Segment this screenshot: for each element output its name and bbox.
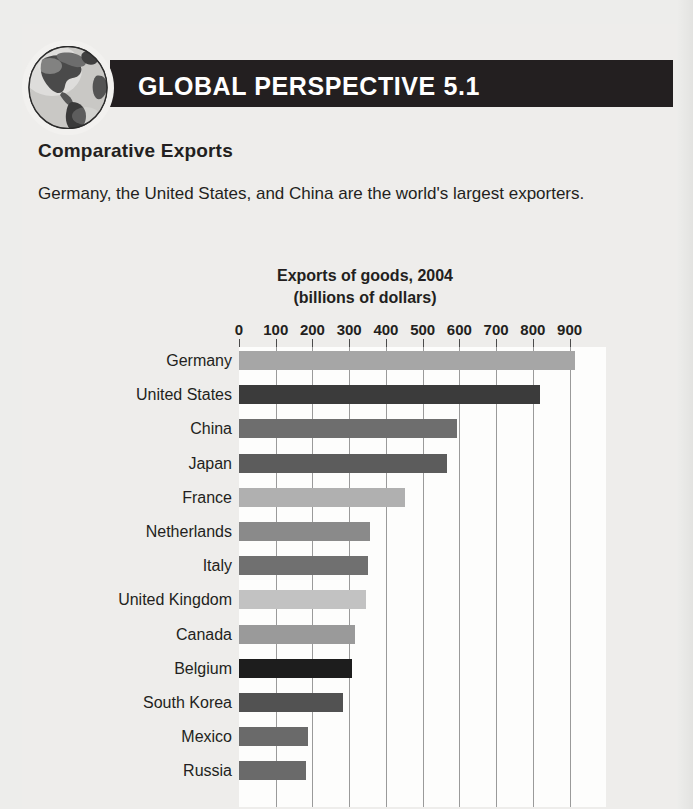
section-body-text: Germany, the United States, and China ar…: [38, 180, 618, 207]
chart-bar: [239, 522, 370, 541]
chart-bar: [239, 385, 540, 404]
gridline: [386, 347, 387, 807]
globe-icon-graphic: [28, 46, 108, 129]
chart-subtitle: (billions of dollars): [130, 287, 600, 309]
page-title: GLOBAL PERSPECTIVE 5.1: [138, 72, 658, 101]
x-axis-tick-label: 0: [221, 321, 257, 338]
gridline: [349, 347, 350, 807]
chart-bar: [239, 761, 306, 780]
gridline: [423, 347, 424, 807]
gridline: [459, 347, 460, 807]
category-label: South Korea: [0, 694, 232, 712]
category-label: Italy: [0, 557, 232, 575]
chart-bar: [239, 454, 447, 473]
chart-bar: [239, 488, 405, 507]
category-label: Russia: [0, 762, 232, 780]
x-axis-tick: [276, 339, 277, 347]
category-label: Japan: [0, 455, 232, 473]
x-axis-tick: [459, 339, 460, 347]
x-axis-tick-label: 900: [552, 321, 588, 338]
chart-title-line1: Exports of goods, 2004: [277, 267, 453, 284]
chart-bar: [239, 590, 366, 609]
category-label: China: [0, 420, 232, 438]
x-axis-tick: [570, 339, 571, 347]
x-axis-tick-label: 400: [368, 321, 404, 338]
chart-plot-area: [239, 347, 606, 807]
category-label: Germany: [0, 352, 232, 370]
chart-bar: [239, 625, 355, 644]
gridline: [533, 347, 534, 807]
x-axis-tick-label: 800: [515, 321, 551, 338]
x-axis-tick-label: 200: [294, 321, 330, 338]
exports-bar-chart: Exports of goods, 2004 (billions of doll…: [0, 265, 693, 809]
category-label: Belgium: [0, 660, 232, 678]
globe-icon: [22, 40, 114, 135]
x-axis-tick: [349, 339, 350, 347]
x-axis-tick-label: 100: [258, 321, 294, 338]
category-label: Canada: [0, 626, 232, 644]
chart-bar: [239, 693, 343, 712]
page-edge-shadow: [677, 0, 693, 809]
x-axis-tick-label: 500: [405, 321, 441, 338]
chart-bar: [239, 419, 457, 438]
x-axis-tick-label: 700: [478, 321, 514, 338]
category-label: Mexico: [0, 728, 232, 746]
page-canvas: GLOBAL PERSPECTIVE 5.1: [0, 0, 693, 809]
x-axis-tick: [496, 339, 497, 347]
y-axis-category-labels: GermanyUnited StatesChinaJapanFranceNeth…: [0, 347, 232, 807]
x-axis-tick-labels: 0100200300400500600700800900: [0, 321, 693, 343]
chart-bar: [239, 659, 352, 678]
x-axis-tick: [239, 339, 240, 347]
x-axis-tick: [533, 339, 534, 347]
x-axis-tick-label: 300: [331, 321, 367, 338]
x-axis-tick-label: 600: [441, 321, 477, 338]
chart-bar: [239, 556, 368, 575]
x-axis-tick: [423, 339, 424, 347]
chart-title: Exports of goods, 2004 (billions of doll…: [130, 265, 600, 309]
gridline: [496, 347, 497, 807]
category-label: France: [0, 489, 232, 507]
gridline: [570, 347, 571, 807]
category-label: United Kingdom: [0, 591, 232, 609]
chart-bar: [239, 727, 308, 746]
category-label: United States: [0, 386, 232, 404]
section-heading: Comparative Exports: [38, 140, 233, 162]
x-axis-tick: [386, 339, 387, 347]
x-axis-tick: [312, 339, 313, 347]
chart-bar: [239, 351, 575, 370]
category-label: Netherlands: [0, 523, 232, 541]
gridline: [312, 347, 313, 807]
